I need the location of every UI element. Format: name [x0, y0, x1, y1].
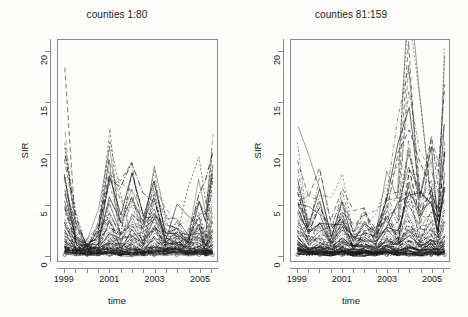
series-lines-right	[291, 40, 449, 261]
y-axis-title-right: SIR	[252, 121, 263, 181]
y-tick-label: 5	[272, 204, 282, 224]
x-tick-label: 2005	[422, 274, 442, 284]
plot-area-right	[290, 39, 450, 262]
x-tick	[166, 268, 167, 273]
plot-area-left	[57, 39, 218, 262]
x-tick	[143, 268, 144, 273]
y-tick-label: 10	[39, 153, 49, 173]
y-tick-label: 0	[39, 255, 49, 275]
x-tick	[87, 268, 88, 273]
y-tick-label: 5	[39, 204, 49, 224]
y-tick-label: 15	[272, 101, 282, 121]
x-tick	[64, 268, 65, 273]
y-axis-line-right	[283, 39, 284, 262]
x-tick-label: 2001	[332, 274, 352, 284]
x-axis-line-right	[290, 268, 450, 269]
y-tick-label: 10	[272, 153, 282, 173]
x-tick	[155, 268, 156, 273]
x-tick	[132, 268, 133, 273]
x-tick	[319, 268, 320, 273]
y-tick-label: 15	[39, 101, 49, 121]
x-tick-label: 2005	[190, 274, 210, 284]
x-tick	[398, 268, 399, 273]
panel-counties-1-80: counties 1:80 05101520 1999200120032005 …	[0, 0, 234, 317]
panel-title-right: counties 81:159	[234, 9, 468, 20]
series-line	[64, 166, 213, 248]
x-axis-title-left: time	[0, 295, 234, 306]
x-axis-title-right: time	[234, 295, 468, 306]
x-tick	[331, 268, 332, 273]
figure-canvas: counties 1:80 05101520 1999200120032005 …	[0, 0, 468, 317]
x-tick	[443, 268, 444, 273]
x-tick	[211, 268, 212, 273]
x-axis-line-left	[57, 268, 218, 269]
x-tick	[200, 268, 201, 273]
x-tick-label: 2003	[377, 274, 397, 284]
x-tick	[189, 268, 190, 273]
series-lines-left	[58, 40, 217, 261]
x-tick-label: 2003	[144, 274, 164, 284]
x-tick	[98, 268, 99, 273]
x-tick	[75, 268, 76, 273]
x-tick	[376, 268, 377, 273]
series-line	[298, 107, 445, 241]
x-tick	[342, 268, 343, 273]
panel-title-left: counties 1:80	[0, 9, 234, 20]
x-tick	[364, 268, 365, 273]
x-tick	[421, 268, 422, 273]
x-tick	[109, 268, 110, 273]
x-tick	[121, 268, 122, 273]
series-line	[65, 68, 213, 249]
x-tick	[177, 268, 178, 273]
y-tick-label: 20	[272, 50, 282, 70]
x-tick-label: 2001	[99, 274, 119, 284]
x-tick	[432, 268, 433, 273]
x-tick-label: 1999	[54, 274, 74, 284]
x-tick	[308, 268, 309, 273]
x-tick	[387, 268, 388, 273]
x-tick	[353, 268, 354, 273]
x-tick	[409, 268, 410, 273]
y-tick-label: 0	[272, 255, 282, 275]
y-tick-label: 20	[39, 50, 49, 70]
y-axis-line-left	[50, 39, 51, 262]
x-tick-label: 1999	[287, 274, 307, 284]
y-axis-title-left: SIR	[19, 121, 30, 181]
x-tick	[297, 268, 298, 273]
series-line	[298, 65, 444, 245]
